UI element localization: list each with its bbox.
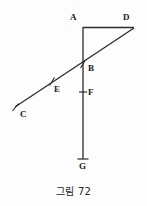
point-label-G: G — [79, 162, 86, 171]
point-label-C: C — [20, 110, 27, 119]
point-label-A: A — [70, 13, 77, 22]
point-label-D: D — [123, 13, 130, 22]
figure-page: A D B E F C G 그림 72 — [0, 0, 147, 206]
point-label-F: F — [88, 88, 94, 97]
figure-caption: 그림 72 — [0, 183, 147, 198]
geometry-diagram — [0, 0, 147, 206]
segment-C-D-diagonal — [15, 28, 134, 107]
point-label-B: B — [88, 64, 94, 73]
point-label-E: E — [54, 85, 60, 94]
tick-at-C — [13, 104, 19, 112]
